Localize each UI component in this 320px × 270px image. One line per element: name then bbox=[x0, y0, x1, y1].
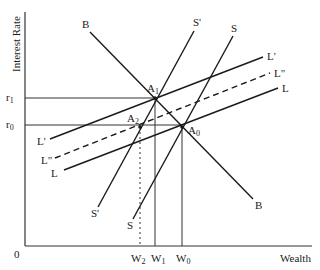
origin-label: 0 bbox=[14, 248, 20, 260]
s-label-top: S bbox=[231, 22, 237, 34]
s-label-bottom: S bbox=[127, 219, 133, 231]
r1-label: r1 bbox=[6, 91, 14, 105]
w0-label: W0 bbox=[176, 252, 190, 266]
s-prime-label-top: S' bbox=[193, 16, 201, 28]
wealth-interest-diagram: Interest Rate Wealth 0 r1 r0 W2 W1 W0 B … bbox=[0, 0, 320, 270]
l-double-prime-curve bbox=[55, 73, 270, 158]
b-curve-label-bottom: B bbox=[255, 199, 262, 211]
point-a1 bbox=[153, 96, 157, 100]
point-a0 bbox=[180, 125, 184, 129]
l-curve bbox=[64, 88, 278, 170]
l-label-right: L bbox=[282, 82, 289, 94]
b-curve bbox=[90, 32, 253, 199]
l-label-left: L bbox=[51, 167, 58, 179]
y-axis-label: Interest Rate bbox=[10, 16, 22, 72]
a0-label: A0 bbox=[188, 124, 200, 138]
l-double-prime-label-left: L" bbox=[41, 154, 52, 166]
a2-label: A2 bbox=[127, 112, 139, 126]
x-axis-label: Wealth bbox=[280, 252, 311, 264]
l-double-prime-label-right: L" bbox=[274, 67, 285, 79]
l-prime-label-right: L' bbox=[267, 50, 276, 62]
a1-label: A1 bbox=[147, 82, 159, 96]
w1-label: W1 bbox=[151, 252, 165, 266]
w2-label: W2 bbox=[131, 252, 145, 266]
s-prime-curve bbox=[98, 31, 194, 207]
r0-label: r0 bbox=[6, 118, 14, 132]
s-prime-label-bottom: S' bbox=[91, 207, 99, 219]
b-curve-label-top: B bbox=[82, 18, 89, 30]
l-prime-label-left: L' bbox=[37, 135, 46, 147]
